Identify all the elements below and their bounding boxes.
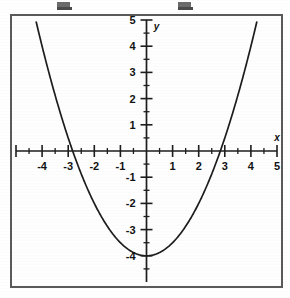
x-tick-label--4: -4 [37, 160, 48, 172]
y-tick-label-4: 4 [129, 40, 136, 52]
glyph-artifact-left-bottom [57, 7, 72, 10]
x-tick-label--1: -1 [116, 160, 126, 172]
y-tick-label--2: -2 [126, 197, 136, 209]
y-tick-labels: 54321-1-2-3-4 [126, 14, 137, 262]
y-tick-label--3: -3 [126, 224, 136, 236]
x-tick-label-2: 2 [196, 160, 202, 172]
x-axis-label: x [273, 132, 280, 143]
x-tick-label--3: -3 [63, 160, 73, 172]
glyph-artifact-right-bottom [178, 7, 193, 10]
x-tick-label--2: -2 [89, 160, 99, 172]
x-tick-label-3: 3 [222, 160, 228, 172]
x-tick-labels: -4-3-2-112345 [37, 160, 280, 172]
x-tick-label-4: 4 [248, 160, 255, 172]
x-tick-label-5: 5 [274, 160, 280, 172]
y-tick-label-3: 3 [129, 66, 135, 78]
parabola-chart: -4-3-2-112345 54321-1-2-3-4 x y [10, 14, 283, 288]
y-tick-label-1: 1 [129, 119, 135, 131]
y-tick-label--4: -4 [126, 250, 137, 262]
x-tick-label-1: 1 [170, 160, 176, 172]
y-tick-label-5: 5 [129, 14, 135, 26]
y-tick-label-2: 2 [129, 93, 135, 105]
top-glyph-artifacts [0, 0, 290, 13]
y-tick-label--1: -1 [126, 171, 136, 183]
y-axis-label: y [153, 21, 160, 32]
